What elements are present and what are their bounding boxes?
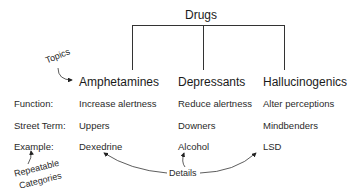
root-node: Drugs [185,8,217,22]
topic-depressants: Depressants [178,75,245,89]
annotation-details: Details [169,168,197,178]
row-label-example: Example: [14,141,54,152]
cell-function-hallucinogenics: Alter perceptions [263,98,334,109]
cell-street-amphetamines: Uppers [79,120,110,131]
cell-example-depressants: Alcohol [178,141,209,152]
cell-example-hallucinogenics: LSD [263,141,281,152]
row-label-street-term: Street Term: [14,120,66,131]
cell-example-amphetamines: Dexedrine [79,141,122,152]
cell-street-hallucinogenics: Mindbenders [263,120,318,131]
topic-amphetamines: Amphetamines [79,75,159,89]
cell-street-depressants: Downers [178,120,216,131]
topic-hallucinogenics: Hallucinogenics [263,75,347,89]
cell-function-amphetamines: Increase alertness [79,98,157,109]
row-label-function: Function: [14,98,53,109]
cell-function-depressants: Reduce alertness [178,98,252,109]
